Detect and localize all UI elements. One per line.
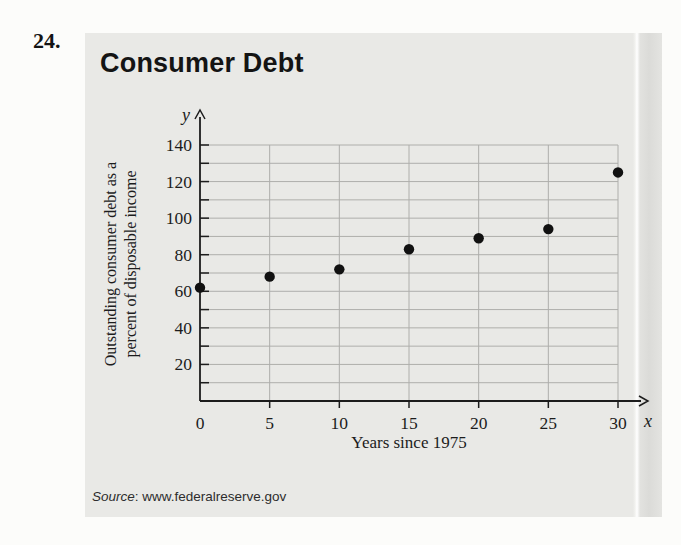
source-note: Source: www.federalreserve.gov bbox=[92, 489, 286, 504]
source-url: : www.federalreserve.gov bbox=[135, 489, 287, 504]
page: 24. Consumer Debt Outstanding consumer d… bbox=[0, 0, 681, 545]
data-point bbox=[264, 271, 274, 281]
x-axis-symbol: x bbox=[643, 411, 652, 431]
y-tick-label: 140 bbox=[166, 135, 193, 155]
axes bbox=[195, 110, 648, 406]
y-tick-label: 80 bbox=[175, 245, 193, 265]
data-point bbox=[195, 282, 205, 292]
y-tick-label: 60 bbox=[175, 281, 193, 301]
tick-labels: 20406080100120140051015202530 bbox=[166, 135, 627, 433]
x-axis-title: Years since 1975 bbox=[200, 433, 618, 453]
x-tick-label: 0 bbox=[196, 413, 205, 433]
y-tick-label: 20 bbox=[175, 354, 193, 374]
x-tick-label: 25 bbox=[540, 413, 558, 433]
chart-panel: Consumer Debt Outstanding consumer debt … bbox=[85, 33, 662, 517]
y-axis-symbol: y bbox=[180, 105, 190, 125]
y-tick-label: 100 bbox=[166, 208, 193, 228]
x-tick-label: 15 bbox=[400, 413, 418, 433]
data-point bbox=[543, 224, 553, 234]
source-label: Source bbox=[92, 489, 135, 504]
data-point bbox=[473, 233, 483, 243]
x-tick-label: 5 bbox=[265, 413, 274, 433]
gridlines bbox=[200, 145, 618, 401]
data-point bbox=[334, 264, 344, 274]
problem-number: 24. bbox=[33, 28, 61, 54]
x-tick-label: 10 bbox=[331, 413, 349, 433]
y-tick-label: 120 bbox=[166, 172, 193, 192]
data-point bbox=[404, 244, 414, 254]
x-tick-label: 20 bbox=[470, 413, 488, 433]
data-point bbox=[613, 167, 623, 177]
y-tick-label: 40 bbox=[175, 318, 193, 338]
x-tick-label: 30 bbox=[609, 413, 627, 433]
